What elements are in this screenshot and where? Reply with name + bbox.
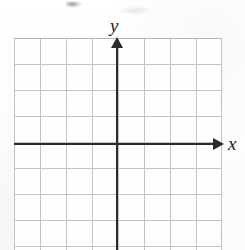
arrow-right-icon — [213, 138, 224, 150]
grid-dotted-row — [14, 220, 222, 221]
coordinate-plane-figure: y x — [0, 0, 245, 250]
scan-artifact — [118, 6, 152, 15]
scan-artifact — [66, 1, 82, 8]
y-axis-label: y — [110, 16, 118, 35]
grid-dotted-row — [14, 168, 222, 169]
grid-dotted-row — [14, 116, 222, 117]
grid-dotted-row — [14, 64, 222, 65]
arrow-up-icon — [111, 37, 123, 48]
y-axis-line — [116, 46, 118, 250]
x-axis-label: x — [228, 134, 236, 153]
